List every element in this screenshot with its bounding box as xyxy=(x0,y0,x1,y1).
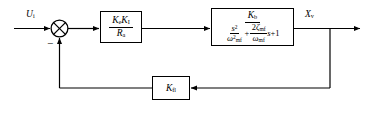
plant-den-term1-den: ω2mf xyxy=(225,34,243,44)
output-signal-label: Xv xyxy=(305,9,314,19)
plant-den-term2-den: ωmf xyxy=(251,34,266,44)
plant-denominator: s2 ω2mf + 2ζmf ωmf s +1 xyxy=(222,23,282,45)
feedback-label: Kfl xyxy=(166,83,176,93)
second-order-plant-block[interactable]: Kb s2 ω2mf + 2ζmf ωmf s +1 xyxy=(211,8,294,46)
plant-den-operator: + xyxy=(243,29,250,38)
plant-den-constant: +1 xyxy=(270,29,279,38)
gain1-numerator: KeKI xyxy=(109,15,133,28)
gain-block-forward[interactable]: KeKI Ra xyxy=(100,11,142,43)
gain1-denominator: Ra xyxy=(114,28,129,40)
summing-junction-glyph xyxy=(51,20,68,37)
plant-fraction: Kb s2 ω2mf + 2ζmf ωmf s +1 xyxy=(222,10,282,44)
feedback-gain-block[interactable]: Kfl xyxy=(152,76,190,100)
input-symbol: U xyxy=(26,9,33,19)
sum-negative-sign: − xyxy=(47,38,53,49)
plant-den-term1: s2 ω2mf xyxy=(225,24,243,43)
output-subscript: v xyxy=(311,12,314,19)
plant-numerator: Kb xyxy=(245,10,260,23)
plant-den-term2: 2ζmf ωmf xyxy=(250,23,267,44)
input-signal-label: Ui xyxy=(26,9,35,19)
input-subscript: i xyxy=(33,12,35,19)
gain1-fraction: KeKI Ra xyxy=(109,15,133,39)
block-diagram-canvas: Ui Xv − KeKI Ra Kb s2 ω2mf + 2ζmf xyxy=(0,0,367,113)
